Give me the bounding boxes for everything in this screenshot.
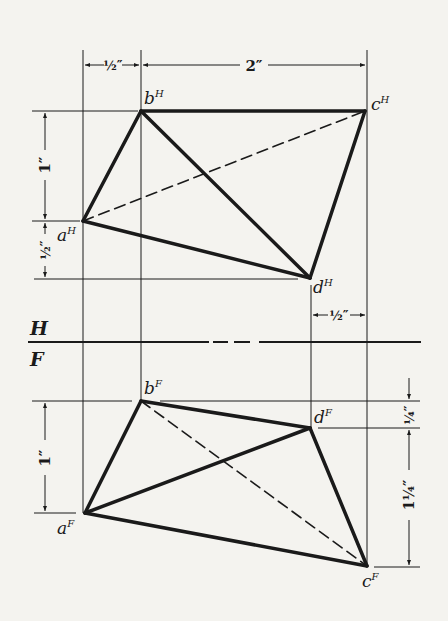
dim-two: 2″: [245, 57, 262, 75]
top-view: [83, 111, 365, 278]
dim-one-quarter-F: 1¼″: [401, 480, 417, 511]
edge-cH-dH: [310, 111, 365, 278]
edge-bH-dH: [141, 111, 310, 278]
edge-aF-dF: [85, 428, 310, 513]
label-dH: dH: [313, 277, 333, 297]
label-bH: bH: [144, 88, 164, 108]
label-bF: bF: [144, 378, 163, 398]
edge-aF-cF: [85, 513, 367, 566]
dim-half-left-H: ½″: [38, 240, 53, 260]
label-cH: cH: [371, 94, 390, 114]
label-aH: aH: [57, 225, 76, 245]
edge-bF-dF: [141, 401, 310, 428]
dim-quarter-F: ¼″: [402, 405, 417, 425]
projection-lines: [32, 50, 420, 567]
label-dF: dF: [314, 407, 333, 427]
hidden-edge-aH-cH: [83, 111, 365, 221]
edge-aH-bH: [83, 111, 141, 221]
dim-half-right-H: ½″: [329, 308, 349, 323]
edge-aH-dH: [83, 221, 310, 278]
label-aF: aF: [57, 518, 75, 538]
dim-half-top: ½″: [103, 58, 123, 73]
label-cF: cF: [362, 571, 380, 591]
projection-diagram: bH cH aH dH bF dF aF cF H F ½″ 2″ 1″ ½″ …: [0, 0, 448, 621]
dim-one-H: 1″: [36, 156, 54, 173]
dim-one-F: 1″: [36, 449, 54, 466]
plane-label-F: F: [29, 348, 45, 370]
plane-label-H: H: [29, 317, 49, 339]
